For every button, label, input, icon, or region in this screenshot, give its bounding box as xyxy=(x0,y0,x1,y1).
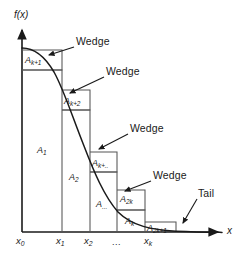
leader-tail xyxy=(183,199,197,223)
step-rectangles xyxy=(22,50,176,232)
leader-wedge-2 xyxy=(70,77,104,93)
annotation-leaders xyxy=(49,47,197,223)
step-row-Adots xyxy=(90,172,117,232)
step-row-A2k xyxy=(117,190,145,210)
step-row-A2 xyxy=(62,110,90,232)
leader-wedge-3 xyxy=(99,134,128,149)
density-curve xyxy=(22,48,222,232)
step-row-A1 xyxy=(22,70,62,232)
ziggurat-figure: f(x) x x0 x1 x2 ... xk Ak+1 Ak+2 A1 Ak+.… xyxy=(0,0,243,256)
figure-canvas xyxy=(0,0,243,256)
